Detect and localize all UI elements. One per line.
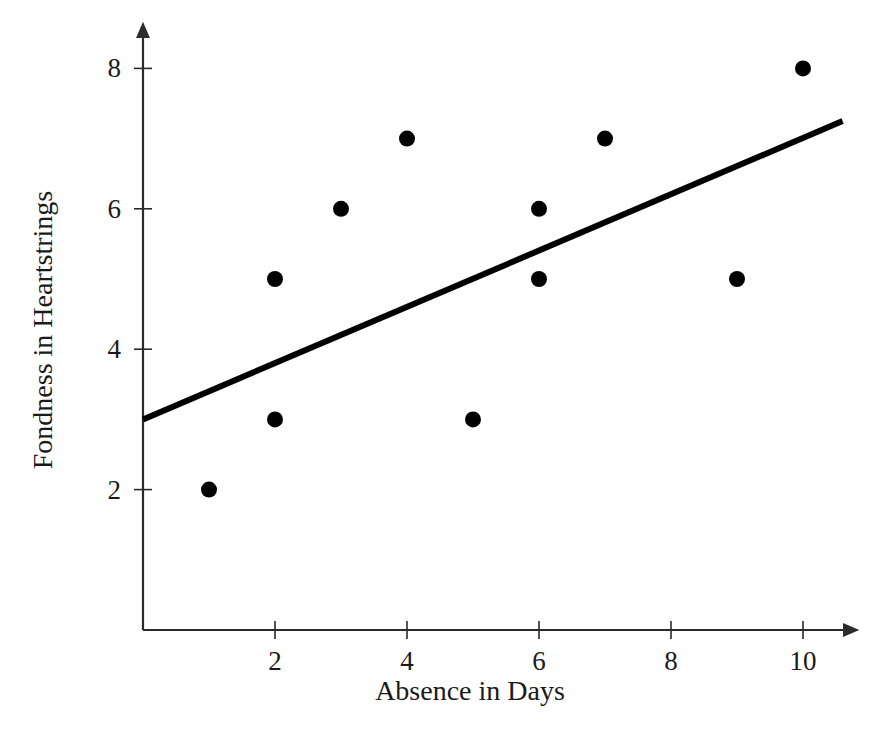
y-tick-label: 4 — [108, 334, 122, 364]
data-point — [465, 411, 481, 427]
data-point — [201, 482, 217, 498]
data-point — [531, 271, 547, 287]
y-axis-label: Fondness in Heartstrings — [27, 191, 58, 469]
x-axis-label: Absence in Days — [375, 675, 565, 706]
regression-line — [143, 121, 843, 419]
y-tick-label: 8 — [108, 53, 122, 83]
x-tick-label: 2 — [268, 646, 282, 676]
data-point — [267, 271, 283, 287]
data-point — [399, 131, 415, 147]
x-tick-label: 6 — [532, 646, 546, 676]
chart-canvas: 2468 246810 Absence in Days Fondness in … — [0, 0, 881, 742]
data-point — [531, 201, 547, 217]
x-tick-label: 8 — [664, 646, 678, 676]
axes — [143, 36, 845, 630]
data-points — [201, 60, 811, 497]
y-tick-label: 6 — [108, 194, 122, 224]
scatter-plot-figure: 2468 246810 Absence in Days Fondness in … — [0, 0, 881, 742]
x-tick-label: 4 — [400, 646, 414, 676]
x-tick-label: 10 — [790, 646, 817, 676]
data-point — [729, 271, 745, 287]
trend-line — [143, 121, 843, 419]
y-tick-label: 2 — [108, 475, 122, 505]
data-point — [267, 411, 283, 427]
y-axis-ticks: 2468 — [108, 53, 153, 504]
data-point — [597, 131, 613, 147]
data-point — [333, 201, 349, 217]
data-point — [795, 60, 811, 76]
